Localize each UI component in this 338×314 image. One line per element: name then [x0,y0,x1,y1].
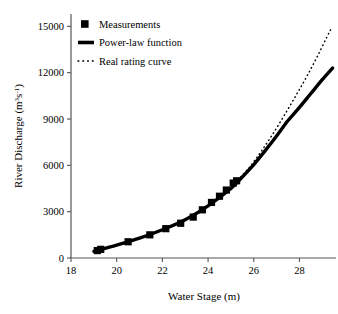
y-axis-ticks: 03000600090001200015000 [38,21,71,264]
y-tick-label: 12000 [38,67,64,78]
x-tick-label: 18 [66,265,77,276]
x-axis-title: Water Stage (m) [168,290,240,303]
rating-curve-chart: 03000600090001200015000 182022242628 Mea… [0,0,338,314]
legend-label: Real rating curve [99,56,172,67]
y-tick-label: 3000 [43,206,64,217]
y-tick-label: 9000 [43,114,64,125]
y-tick-label: 15000 [38,21,64,32]
series-line-power-law [94,68,333,251]
svg-text:River Discharge (m3s-1): River Discharge (m3s-1) [12,84,25,188]
x-tick-label: 28 [294,265,305,276]
chart-legend: MeasurementsPower-law functionReal ratin… [78,19,183,67]
legend-label: Measurements [99,19,160,30]
x-axis-ticks: 182022242628 [66,258,305,276]
x-tick-label: 26 [249,265,260,276]
x-tick-label: 24 [203,265,214,276]
y-tick-label: 0 [59,253,64,264]
legend-swatch-measurements [81,20,89,28]
y-axis-title-tail: ) [12,84,25,88]
y-tick-label: 6000 [43,160,64,171]
x-tick-label: 20 [111,265,122,276]
y-axis-title: River Discharge (m3s-1) [12,84,25,188]
axes [71,14,336,258]
x-tick-label: 22 [157,265,168,276]
legend-label: Power-law function [99,37,183,48]
y-axis-title-text: River Discharge (m [12,101,25,188]
series-line-real-rating-curve [238,27,333,180]
chart-figure: 03000600090001200015000 182022242628 Mea… [0,0,338,314]
